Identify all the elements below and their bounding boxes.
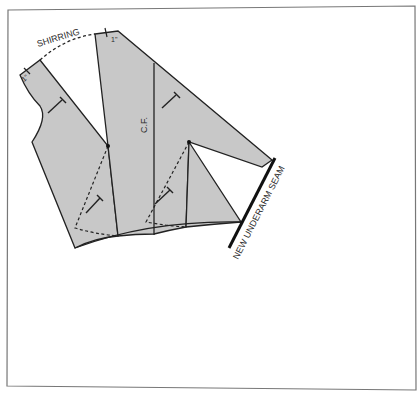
pattern-piece-front <box>95 31 272 236</box>
pattern-diagram: 1" 1" SHIRRING C.F. NEW UNDERARM SEAM <box>0 0 419 401</box>
center-front-label: C.F. <box>139 117 149 133</box>
pivot-point-right <box>187 140 191 144</box>
pivot-point-left <box>106 144 110 148</box>
shirring-label: SHIRRING <box>36 26 81 48</box>
new-underarm-seam-label: NEW UNDERARM SEAM <box>231 164 287 261</box>
seam-allowance-top: 1" <box>111 36 118 43</box>
